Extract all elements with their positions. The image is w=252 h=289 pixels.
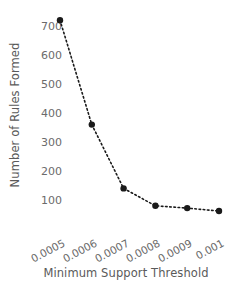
x-axis-title: Minimum Support Threshold — [0, 266, 252, 280]
chart-container: Number of Rules Formed 70060050040030020… — [0, 0, 252, 289]
x-axis-tick-labels: 0.00050.00060.00070.00080.00090.001 — [0, 0, 252, 289]
